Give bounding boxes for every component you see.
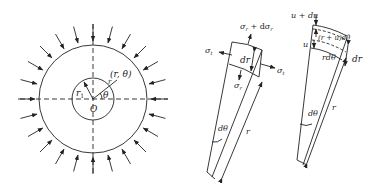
inner-arc [229, 64, 259, 77]
pressure-arrow [40, 140, 52, 152]
pressure-arrow [56, 149, 65, 164]
sigma-r-label: σr [234, 81, 242, 91]
cylinder-figure [18, 24, 168, 176]
dr-label-right: dr [352, 54, 363, 64]
pressure-arrow [108, 27, 112, 43]
dr-dimension-arrow [251, 52, 254, 71]
sigma-r-arrow [239, 70, 241, 80]
pressure-arrow [56, 34, 65, 49]
pressure-arrow [28, 128, 43, 137]
pressure-arrow [21, 80, 37, 84]
pressure-arrow [74, 155, 78, 171]
pressure-arrow [40, 46, 52, 58]
pressure-arrow [149, 114, 165, 118]
theta-label: θ [103, 90, 109, 100]
wedge2-bottom [297, 160, 307, 165]
wedge-right-edge [212, 50, 262, 177]
r-label-right: r [332, 103, 337, 112]
pressure-arrow [134, 140, 146, 152]
theta-arc [100, 93, 102, 99]
sigma-r-plus-arrow [248, 34, 251, 44]
pressure-arrow [122, 149, 131, 164]
dtheta-label-right: dθ [308, 109, 318, 118]
dr-label: dr [240, 55, 251, 65]
origin-label: O [90, 104, 98, 114]
pressure-arrow [122, 34, 131, 49]
wedge-left-edge [207, 42, 232, 172]
u-label: u [303, 40, 308, 49]
r1-radius-arrow [84, 82, 93, 99]
r-plus-u-dtheta-label: (r + u)dθ [318, 34, 351, 42]
pressure-arrow [108, 155, 112, 171]
pressure-arrow [143, 62, 158, 71]
sigma-t-right-arrow [261, 64, 275, 68]
r-dtheta-label: rdθ [322, 53, 336, 62]
pressure-arrow [28, 62, 43, 71]
pressure-arrow [134, 46, 146, 58]
pressure-arrow [143, 128, 158, 137]
u-plus-du-label: u + du [291, 11, 318, 20]
pressure-arrow [149, 80, 165, 84]
diagram-svg: (r, θ) r r1 θ O σr + dσr σt σt σr dr dθ … [0, 0, 387, 192]
pressure-arrow [74, 27, 78, 43]
dtheta-label: dθ [218, 124, 228, 133]
diagram-stage: (r, θ) r r1 θ O σr + dσr σt σt σr dr dθ … [0, 0, 387, 192]
sigma-r-plus-label: σr + dσr [240, 22, 273, 32]
r-label-middle: r [246, 127, 251, 136]
sigma-t-right-label: σt [277, 66, 285, 76]
dtheta-arc-right [300, 124, 312, 126]
dr-arrow-right [345, 45, 348, 66]
r1-label: r1 [76, 88, 84, 99]
r-dimension-arrow [222, 82, 262, 178]
outer-arc [232, 42, 262, 50]
sigma-t-left-label: σt [205, 46, 213, 56]
point-label: (r, θ) [110, 69, 132, 79]
pressure-arrow [21, 114, 37, 118]
